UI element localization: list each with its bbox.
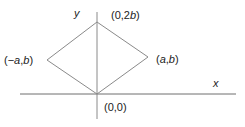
vertex-label-origin: (0,0) bbox=[104, 101, 127, 113]
x-axis-label: x bbox=[212, 77, 219, 89]
vertex-label-top: (0,2b) bbox=[111, 9, 140, 21]
vertex-label-right: (a,b) bbox=[156, 53, 179, 65]
vertex-label-left: (−a,b) bbox=[4, 54, 33, 66]
y-axis-label: y bbox=[73, 7, 81, 19]
coordinate-diagram: y x (0,2b) (−a,b) (a,b) (0,0) bbox=[0, 0, 245, 127]
